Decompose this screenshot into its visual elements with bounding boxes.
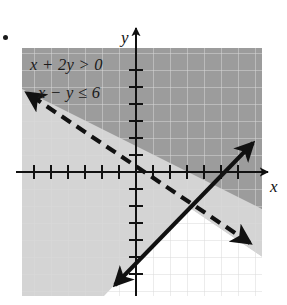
graph-canvas: x + 2y > 0 x − y ≤ 6 y x [0, 0, 287, 305]
inequality-graph-figure: x + 2y > 0 x − y ≤ 6 y x [0, 0, 287, 305]
bullet-marker [3, 35, 8, 40]
x-axis-label: x [269, 177, 278, 196]
inequality-label-2: x − y ≤ 6 [37, 83, 101, 102]
inequality-label-1: x + 2y > 0 [29, 55, 103, 74]
y-axis-label: y [119, 28, 129, 47]
